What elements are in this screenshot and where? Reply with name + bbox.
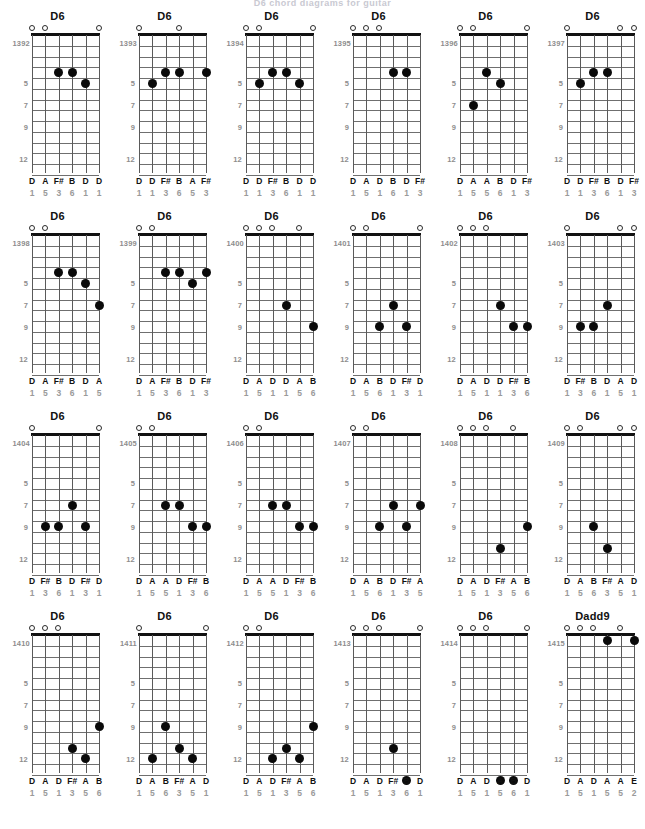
fret-line	[353, 164, 420, 165]
chord-diagram[interactable]: D6140057912DADDAB151156	[218, 208, 325, 408]
string-line	[366, 635, 367, 773]
fretboard-diagram: 140757912DABDF#A156135	[325, 424, 432, 604]
chord-diagram[interactable]: D6140257912DADDF#B151136	[432, 208, 539, 408]
chord-diagram[interactable]: D6139757912DDF#BDF#113613	[539, 8, 645, 208]
chord-diagram[interactable]: D6141357912DADF#BD151361	[325, 608, 432, 817]
fret-number-label: 7	[4, 101, 28, 110]
string-line	[380, 435, 381, 573]
interval-label: 2	[626, 788, 642, 798]
chord-diagram[interactable]: D6140957912DABF#AD156351	[539, 408, 645, 608]
open-string-markers	[139, 624, 206, 633]
interval-row: 151356	[32, 788, 99, 800]
interval-label: 5	[412, 588, 428, 598]
open-string-markers	[139, 224, 206, 233]
fret-line	[246, 246, 313, 247]
fretboard-diagram: 139757912DDF#BDF#113613	[539, 24, 645, 204]
fret-number-label: 12	[218, 354, 242, 363]
chord-diagram[interactable]: D6140857912DADF#AB151356	[432, 408, 539, 608]
chord-diagram[interactable]: D6139857912DAF#BDA153615	[4, 208, 111, 408]
chord-id-label: 1409	[539, 439, 565, 448]
string-line	[580, 635, 581, 773]
string-line	[487, 235, 488, 373]
open-string-circle-icon	[256, 225, 262, 231]
fret-line	[246, 564, 313, 565]
chord-diagram[interactable]: D6140457912DF#BDF#D136131	[4, 408, 111, 608]
fret-line	[139, 700, 206, 701]
fret-line	[567, 246, 634, 247]
chord-diagram[interactable]: D6141457912DADABD151561	[432, 608, 539, 817]
string-line	[259, 235, 260, 373]
fret-number-label: 9	[111, 322, 135, 331]
open-string-circle-icon	[363, 625, 369, 631]
note-label: A	[91, 376, 107, 386]
fret-line	[32, 489, 99, 490]
chord-diagram[interactable]: D6141057912DADF#AB151356	[4, 608, 111, 817]
chord-diagram[interactable]: D6140757912DABDF#A156135	[325, 408, 432, 608]
fret-line	[353, 678, 420, 679]
open-string-markers	[567, 24, 634, 33]
chord-diagram[interactable]: D6140657912DAADF#B155136	[218, 408, 325, 608]
fret-line	[32, 132, 99, 133]
finger-dot	[81, 79, 90, 88]
fret-line	[246, 267, 313, 268]
interval-row: 155136	[139, 588, 206, 600]
fret-line	[460, 500, 527, 501]
string-line	[273, 235, 274, 373]
fret-line	[32, 721, 99, 722]
chord-diagram[interactable]: D6139257912DAF#BDD153611	[4, 8, 111, 208]
string-line	[273, 635, 274, 773]
chord-diagram[interactable]: D6139357912DDF#BAF#113653	[111, 8, 218, 208]
fret-line	[246, 446, 313, 447]
fret-line	[460, 743, 527, 744]
open-string-markers	[139, 24, 206, 33]
string-line	[580, 435, 581, 573]
string-line	[59, 35, 60, 173]
fret-number-label: 9	[4, 722, 28, 731]
open-string-circle-icon	[256, 25, 262, 31]
fret-line	[246, 110, 313, 111]
fret-number-label: 12	[325, 554, 349, 563]
fretboard-grid	[246, 633, 313, 773]
chord-name: D6	[4, 8, 111, 24]
note-label: F#	[519, 176, 535, 186]
fret-line	[32, 543, 99, 544]
fret-line	[139, 300, 206, 301]
chord-diagram[interactable]: Dadd9141557912DADAAE151552	[539, 608, 645, 817]
string-line	[259, 635, 260, 773]
interval-label: 6	[519, 388, 535, 398]
open-string-circle-icon	[42, 225, 48, 231]
open-string-circle-icon	[564, 625, 570, 631]
chord-diagram[interactable]: D6139657912DAABDF#155613	[432, 8, 539, 208]
fret-number-label: 12	[111, 154, 135, 163]
fret-line	[139, 278, 206, 279]
note-name-row: DADF#AB	[460, 576, 527, 588]
fretboard-diagram: 140857912DADF#AB151356	[432, 424, 539, 604]
interval-label: 3	[626, 188, 642, 198]
open-string-markers	[567, 224, 634, 233]
fret-line	[139, 500, 206, 501]
chord-diagram[interactable]: D6139957912DAF#BDF#153613	[111, 208, 218, 408]
chord-diagram[interactable]: D6140157912DABDF#D156131	[325, 208, 432, 408]
open-string-circle-icon	[457, 625, 463, 631]
chord-name: D6	[218, 208, 325, 224]
string-line	[246, 35, 247, 173]
chord-diagram[interactable]: D6141157912DABF#AD156351	[111, 608, 218, 817]
fret-line	[353, 100, 420, 101]
string-line	[527, 235, 528, 373]
chord-diagram[interactable]: D6140357912DF#BDAD136151	[539, 208, 645, 408]
fret-line	[139, 446, 206, 447]
note-name-row: DF#BDAD	[567, 376, 634, 388]
note-label: B	[91, 776, 107, 786]
note-name-row: DDF#BDD	[246, 176, 313, 188]
chord-diagram[interactable]: D6139557912DADBDF#151613	[325, 8, 432, 208]
fret-line	[567, 100, 634, 101]
note-name-row: DADAAE	[567, 776, 634, 788]
interval-label: 5	[91, 388, 107, 398]
string-line	[567, 435, 568, 573]
finger-dot	[95, 301, 104, 310]
chord-diagram[interactable]: D6139457912DDF#BDD113611	[218, 8, 325, 208]
fret-number-label: 5	[539, 679, 563, 688]
chord-diagram[interactable]: D6141257912DADF#AB151356	[218, 608, 325, 817]
chord-name: D6	[111, 208, 218, 224]
chord-diagram[interactable]: D6140557912DAADF#B155136	[111, 408, 218, 608]
